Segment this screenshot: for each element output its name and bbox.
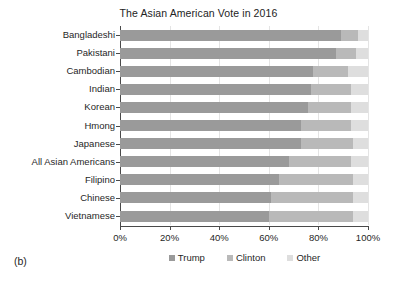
bar-segment-clinton: [336, 48, 356, 59]
x-tick-label: 60%: [249, 232, 289, 243]
bar-segment-trump: [120, 138, 301, 149]
stacked-bar: [120, 66, 368, 77]
x-tick-label: 100%: [348, 232, 388, 243]
bar-segment-clinton: [301, 138, 353, 149]
bar-segment-clinton: [301, 120, 351, 131]
bar-segment-other: [356, 48, 368, 59]
bar-row: [120, 135, 368, 153]
y-tick-label-korean: Korean: [0, 101, 115, 112]
bar-segment-other: [353, 192, 368, 203]
legend-swatch-trump-icon: [169, 255, 175, 261]
chart-legend: TrumpClintonOther: [120, 252, 369, 263]
y-tick-mark: [116, 71, 120, 72]
bar-segment-clinton: [271, 192, 353, 203]
y-tick-mark: [116, 53, 120, 54]
y-tick-mark: [116, 35, 120, 36]
stacked-bar: [120, 48, 368, 59]
bar-segment-trump: [120, 156, 289, 167]
y-tick-mark: [116, 198, 120, 199]
panel-label: (b): [14, 255, 27, 267]
bar-segment-clinton: [269, 211, 353, 222]
bar-segment-trump: [120, 211, 269, 222]
x-tick-label: 80%: [298, 232, 338, 243]
x-tick-mark: [219, 226, 220, 230]
y-tick-label-japanese: Japanese: [0, 138, 115, 149]
bar-segment-other: [351, 102, 368, 113]
y-tick-mark: [116, 126, 120, 127]
bar-segment-trump: [120, 192, 271, 203]
bar-row: [120, 62, 368, 80]
chart-title: The Asian American Vote in 2016: [0, 7, 397, 19]
bar-segment-trump: [120, 48, 336, 59]
bar-segment-clinton: [341, 30, 358, 41]
chart-figure: The Asian American Vote in 2016 TrumpCli…: [0, 0, 397, 286]
y-tick-mark: [116, 180, 120, 181]
x-tick-label: 20%: [150, 232, 190, 243]
bar-row: [120, 189, 368, 207]
bar-segment-other: [351, 156, 368, 167]
bar-row: [120, 80, 368, 98]
x-tick-label: 0%: [100, 232, 140, 243]
stacked-bar: [120, 156, 368, 167]
y-tick-label-hmong: Hmong: [0, 120, 115, 131]
bar-row: [120, 44, 368, 62]
x-tick-mark: [318, 226, 319, 230]
bar-segment-trump: [120, 174, 279, 185]
bar-row: [120, 171, 368, 189]
x-axis-line: [120, 226, 369, 227]
bar-segment-clinton: [289, 156, 351, 167]
bar-segment-clinton: [313, 66, 348, 77]
bar-segment-trump: [120, 120, 301, 131]
x-tick-mark: [368, 226, 369, 230]
bar-row: [120, 207, 368, 225]
x-tick-mark: [120, 226, 121, 230]
legend-item-clinton[interactable]: Clinton: [227, 252, 266, 263]
bar-segment-other: [351, 120, 368, 131]
stacked-bar: [120, 30, 368, 41]
bar-segment-clinton: [311, 84, 351, 95]
y-tick-label-indian: Indian: [0, 83, 115, 94]
gridline: [368, 26, 369, 225]
y-tick-label-cambodian: Cambodian: [0, 65, 115, 76]
stacked-bar: [120, 192, 368, 203]
legend-label: Trump: [178, 252, 205, 263]
y-tick-mark: [116, 107, 120, 108]
bar-segment-clinton: [308, 102, 350, 113]
stacked-bar: [120, 211, 368, 222]
y-tick-label-pakistani: Pakistani: [0, 47, 115, 58]
plot-area: [120, 26, 368, 225]
x-tick-mark: [170, 226, 171, 230]
bar-row: [120, 153, 368, 171]
bar-segment-other: [353, 174, 368, 185]
stacked-bar: [120, 84, 368, 95]
y-tick-label-bangladeshi: Bangladeshi: [0, 29, 115, 40]
y-tick-mark: [116, 144, 120, 145]
legend-label: Clinton: [236, 252, 266, 263]
y-tick-label-filipino: Filipino: [0, 174, 115, 185]
legend-item-trump[interactable]: Trump: [169, 252, 205, 263]
bar-segment-other: [358, 30, 368, 41]
y-tick-label-chinese: Chinese: [0, 192, 115, 203]
x-tick-mark: [269, 226, 270, 230]
y-tick-label-vietnamese: Vietnamese: [0, 210, 115, 221]
bar-segment-clinton: [279, 174, 353, 185]
y-tick-mark: [116, 89, 120, 90]
legend-item-other[interactable]: Other: [287, 252, 320, 263]
y-tick-label-all-asian-americans: All Asian Americans: [0, 156, 115, 167]
stacked-bar: [120, 174, 368, 185]
y-tick-mark: [116, 216, 120, 217]
bar-row: [120, 98, 368, 116]
legend-label: Other: [296, 252, 320, 263]
stacked-bar: [120, 120, 368, 131]
bar-segment-other: [353, 211, 368, 222]
stacked-bar: [120, 138, 368, 149]
bar-segment-trump: [120, 30, 341, 41]
bar-row: [120, 116, 368, 134]
bar-segment-trump: [120, 84, 311, 95]
stacked-bar: [120, 102, 368, 113]
bar-segment-other: [348, 66, 368, 77]
bar-segment-other: [353, 138, 368, 149]
bar-row: [120, 26, 368, 44]
bar-segment-trump: [120, 102, 308, 113]
legend-swatch-other-icon: [287, 255, 293, 261]
